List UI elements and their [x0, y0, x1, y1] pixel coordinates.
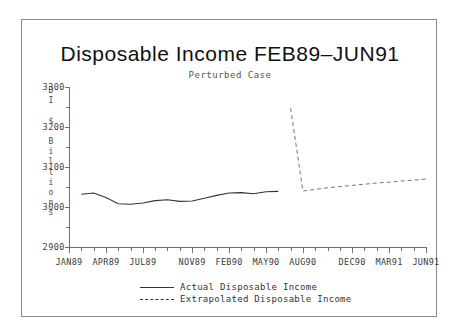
x-axis-tick-label: MAY90	[252, 257, 279, 267]
x-axis-tick-minor	[204, 247, 205, 251]
x-axis-tick-minor	[377, 247, 378, 251]
x-axis-tick-minor	[340, 247, 341, 251]
x-axis-tick-major	[229, 247, 230, 253]
x-axis-tick-minor	[217, 247, 218, 251]
x-axis-tick-minor	[328, 247, 329, 251]
x-axis-tick-minor	[131, 247, 132, 251]
x-axis-tick-major	[143, 247, 144, 253]
x-axis-tick-label: DEC90	[339, 257, 366, 267]
x-axis-tick-label: AUG90	[289, 257, 316, 267]
plot-area: 29003000310032003300 JAN89APR89JUL89NOV8…	[69, 87, 426, 247]
x-axis-tick-label: NOV89	[179, 257, 206, 267]
legend-item-actual: Actual Disposable Income	[140, 281, 352, 293]
y-axis-caption-char: i	[45, 147, 57, 157]
legend-label-extrapolated: Extrapolated Disposable Income	[180, 294, 352, 304]
series-layer	[69, 87, 426, 247]
x-axis-tick-major	[69, 247, 70, 253]
x-axis-tick-minor	[180, 247, 181, 251]
x-axis-tick-minor	[315, 247, 316, 251]
chart-title: Disposable Income FEB89–JUN91	[22, 42, 438, 66]
x-axis-tick-minor	[414, 247, 415, 251]
x-axis-tick-major	[389, 247, 390, 253]
legend-line-dashed-icon	[140, 294, 174, 304]
x-axis-tick-minor	[94, 247, 95, 251]
x-axis-tick-label: MAR91	[376, 257, 403, 267]
x-axis-tick-label: JAN89	[55, 257, 82, 267]
y-axis-tick-label: 3100	[43, 162, 65, 172]
legend-label-actual: Actual Disposable Income	[180, 282, 317, 292]
x-axis-tick-minor	[118, 247, 119, 251]
x-axis-tick-minor	[254, 247, 255, 251]
x-axis-tick-minor	[364, 247, 365, 251]
x-axis-tick-minor	[167, 247, 168, 251]
y-axis-tick-label: 3000	[43, 202, 65, 212]
x-axis-tick-minor	[401, 247, 402, 251]
x-axis-tick-label: JUL89	[129, 257, 156, 267]
x-axis-tick-major	[266, 247, 267, 253]
series-line-actual	[81, 191, 278, 204]
x-axis-tick-minor	[241, 247, 242, 251]
x-axis-tick-major	[303, 247, 304, 253]
y-axis-caption-char: o	[45, 188, 57, 198]
x-axis-tick-major	[352, 247, 353, 253]
x-axis-tick-minor	[155, 247, 156, 251]
x-axis-tick-minor	[278, 247, 279, 251]
x-axis-tick-label: JUN91	[412, 257, 439, 267]
x-axis-tick-major	[106, 247, 107, 253]
y-axis-tick-label: 3300	[43, 82, 65, 92]
x-axis-tick-label: APR89	[92, 257, 119, 267]
chart-frame: Disposable Income FEB89–JUN91 Perturbed …	[21, 19, 437, 317]
x-axis-tick-minor	[81, 247, 82, 251]
x-axis-tick-label: FEB90	[215, 257, 242, 267]
y-axis-caption-char: B	[45, 137, 57, 147]
y-axis-tick-label: 3200	[43, 122, 65, 132]
y-axis-tick-label: 2900	[43, 242, 65, 252]
series-line-extrapolated	[291, 108, 426, 191]
legend-item-extrapolated: Extrapolated Disposable Income	[140, 293, 352, 305]
y-axis-caption: DI $ Billions	[45, 86, 57, 218]
y-axis-caption-char: i	[45, 178, 57, 188]
chart-subtitle: Perturbed Case	[22, 70, 438, 80]
y-axis-caption-char	[45, 106, 57, 116]
x-axis-tick-minor	[291, 247, 292, 251]
legend-line-solid-icon	[140, 282, 174, 292]
chart-legend: Actual Disposable Income Extrapolated Di…	[140, 281, 352, 305]
y-axis-caption-char: I	[45, 96, 57, 106]
x-axis-tick-major	[192, 247, 193, 253]
x-axis-tick-major	[426, 247, 427, 253]
chart-page: Disposable Income FEB89–JUN91 Perturbed …	[0, 0, 457, 334]
x-axis-line	[69, 247, 426, 248]
